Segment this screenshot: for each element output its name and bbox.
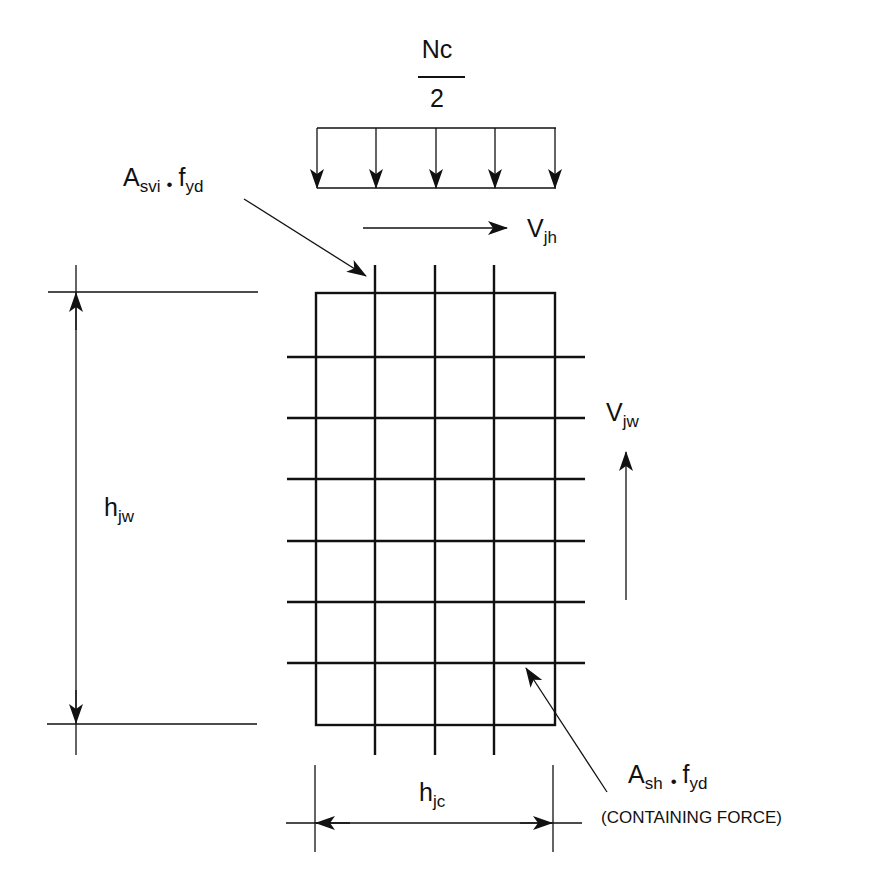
dot-operator: •: [671, 772, 677, 791]
pointer-arrow-icon: [244, 199, 366, 276]
label-sub: jh: [543, 228, 557, 247]
svg-text:Ash•fyd: Ash•fyd: [628, 760, 708, 793]
svg-text:Vjh: Vjh: [527, 214, 557, 247]
label-sub: jw: [622, 412, 640, 431]
horizontal-shear: Vjh: [363, 214, 557, 247]
label-sub: jw: [117, 507, 135, 526]
vertical-shear: Vjw: [606, 398, 639, 600]
label-base: V: [527, 214, 544, 242]
horizontal-reinforcement-label: Ash•fyd (CONTAINING FORCE): [526, 668, 782, 827]
containing-force-note: (CONTAINING FORCE): [601, 808, 782, 827]
svg-text:Asvi•fyd: Asvi•fyd: [123, 163, 203, 196]
label-base: h: [419, 778, 433, 806]
distributed-load: [317, 128, 556, 188]
label-f: f: [683, 760, 690, 788]
dot-operator: •: [166, 175, 172, 194]
svg-text:hjc: hjc: [419, 778, 446, 811]
joint-height-dimension: hjw: [47, 265, 258, 755]
label-base: A: [628, 760, 645, 788]
svg-text:Vjw: Vjw: [606, 398, 639, 431]
label-base: h: [104, 493, 118, 521]
label-f: f: [178, 163, 185, 191]
vertical-reinforcement-label: Asvi•fyd: [123, 163, 366, 276]
joint-width-dimension: hjc: [286, 765, 582, 852]
label-fsub: yd: [690, 774, 708, 793]
label-sub: svi: [140, 177, 161, 196]
axial-load-label: Nc 2: [418, 35, 465, 112]
axial-load-numerator: Nc: [422, 35, 453, 63]
label-fsub: yd: [185, 177, 203, 196]
svg-text:hjw: hjw: [104, 493, 135, 526]
axial-load-denominator: 2: [430, 84, 444, 112]
pointer-arrow-icon: [526, 668, 607, 792]
label-sub: jc: [432, 792, 446, 811]
label-base: V: [606, 398, 623, 426]
label-base: A: [123, 163, 140, 191]
label-sub: sh: [645, 774, 663, 793]
joint-diagram: Nc 2 Asvi•fyd Vjh: [0, 0, 884, 887]
vertical-bars: [375, 265, 494, 755]
